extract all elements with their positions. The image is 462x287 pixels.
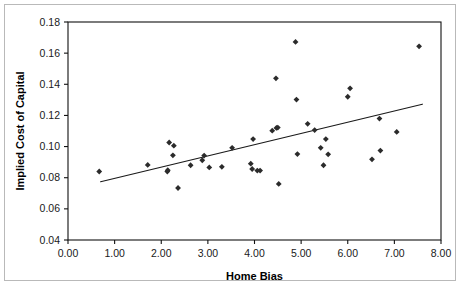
y-tick-label: 0.16 [40, 47, 61, 59]
y-tick-label: 0.10 [40, 140, 61, 152]
y-axis-tick-labels: 0.040.060.080.100.120.140.160.18 [40, 16, 61, 246]
scatter-plot: 0.040.060.080.100.120.140.160.18 0.001.0… [0, 0, 462, 287]
y-tick-label: 0.14 [40, 78, 61, 90]
x-axis-tick-labels: 0.001.002.003.004.005.006.007.008.00 [58, 247, 452, 259]
x-tick-label: 5.00 [291, 247, 312, 259]
x-tick-label: 7.00 [384, 247, 405, 259]
chart-figure: 0.040.060.080.100.120.140.160.18 0.001.0… [0, 0, 462, 287]
x-tick-label: 8.00 [431, 247, 452, 259]
x-tick-label: 3.00 [198, 247, 219, 259]
y-tick-label: 0.06 [40, 202, 61, 214]
y-tick-label: 0.08 [40, 171, 61, 183]
y-axis-title: Implied Cost of Capital [14, 71, 26, 190]
x-tick-label: 2.00 [151, 247, 172, 259]
y-axis-ticks [64, 22, 68, 240]
x-tick-label: 6.00 [338, 247, 359, 259]
x-axis-title: Home Bias [226, 270, 283, 282]
y-tick-label: 0.12 [40, 109, 61, 121]
plot-axes [68, 22, 441, 240]
x-tick-label: 0.00 [58, 247, 79, 259]
x-tick-label: 4.00 [244, 247, 265, 259]
plot-area-frame [68, 22, 441, 240]
y-tick-label: 0.04 [40, 234, 61, 246]
x-axis-ticks [68, 240, 441, 244]
x-tick-label: 1.00 [104, 247, 125, 259]
y-tick-label: 0.18 [40, 16, 61, 28]
